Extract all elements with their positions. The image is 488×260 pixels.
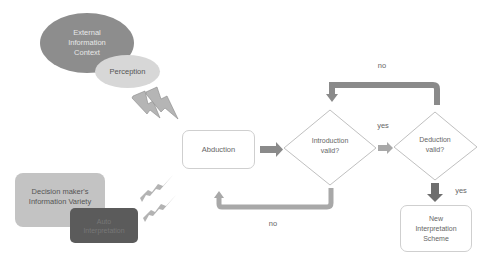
edge-label-introduction-no: no <box>263 219 283 229</box>
node-label: Auto <box>83 217 124 226</box>
arrow-introduction-to-deduction <box>378 142 393 154</box>
edge-label-deduction-no: no <box>372 61 392 71</box>
node-label: Deduction <box>402 135 468 145</box>
node-label: New <box>415 214 456 224</box>
arrow-deduction-no <box>332 85 437 105</box>
node-label: valid? <box>402 145 468 155</box>
node-label: Information Variety <box>29 197 91 207</box>
arrowhead <box>326 94 338 102</box>
node-label: Perception <box>110 67 146 76</box>
node-label: External <box>68 28 106 38</box>
lightning-icon <box>140 175 176 222</box>
node-label: Decision maker's <box>29 187 91 197</box>
arrow-abduction-to-introduction <box>260 142 283 157</box>
node-label: Information <box>68 38 106 48</box>
node-label: Context <box>68 48 106 58</box>
arrow-deduction-yes <box>427 183 443 202</box>
node-label: Abduction <box>202 145 235 154</box>
edge-label-introduction-yes: yes <box>373 121 393 131</box>
node-label: Interpretation <box>83 226 124 235</box>
node-label: Scheme <box>415 234 456 244</box>
node-label: valid? <box>295 146 365 156</box>
edge-label-deduction-yes: yes <box>451 186 471 196</box>
deduction-valid-label: Deduction valid? <box>402 135 468 155</box>
lightning-icon <box>132 87 178 119</box>
perception-node: Perception <box>95 55 160 88</box>
auto-interpretation-node: Auto Interpretation <box>70 208 138 243</box>
new-interpretation-scheme-node: New Interpretation Scheme <box>400 205 472 252</box>
node-label: Interpretation <box>415 224 456 234</box>
arrowhead <box>214 191 224 198</box>
abduction-node: Abduction <box>182 130 255 169</box>
node-label: Introduction <box>295 136 365 146</box>
introduction-valid-label: Introduction valid? <box>295 136 365 156</box>
arrow-introduction-no <box>219 188 331 207</box>
